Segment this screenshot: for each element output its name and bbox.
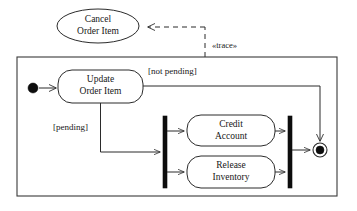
action-credit-account-label-line1: Credit	[219, 119, 243, 129]
final-node-core	[316, 146, 324, 154]
diagram-svg: Cancel Order Item «trace» Update Order I…	[0, 0, 357, 211]
fork-bar[interactable]	[163, 116, 167, 188]
use-case-cancel-order-item-label-line2: Order Item	[77, 26, 120, 36]
join-bar[interactable]	[288, 116, 292, 188]
use-case-cancel-order-item-label-line1: Cancel	[85, 14, 112, 24]
trace-stereotype-label: «trace»	[212, 40, 237, 50]
action-update-order-item-label-line2: Order Item	[80, 86, 123, 96]
activity-diagram-canvas: Cancel Order Item «trace» Update Order I…	[0, 0, 357, 211]
edge-pending-to-fork	[101, 103, 161, 152]
guard-not-pending-label: [not pending]	[148, 66, 197, 76]
action-update-order-item-label-line1: Update	[87, 74, 114, 84]
action-release-inventory-label-line2: Inventory	[213, 172, 250, 182]
guard-pending-label: [pending]	[53, 122, 88, 132]
action-release-inventory-label-line1: Release	[216, 160, 246, 170]
action-credit-account-label-line2: Account	[215, 131, 248, 141]
initial-node[interactable]	[28, 83, 38, 93]
